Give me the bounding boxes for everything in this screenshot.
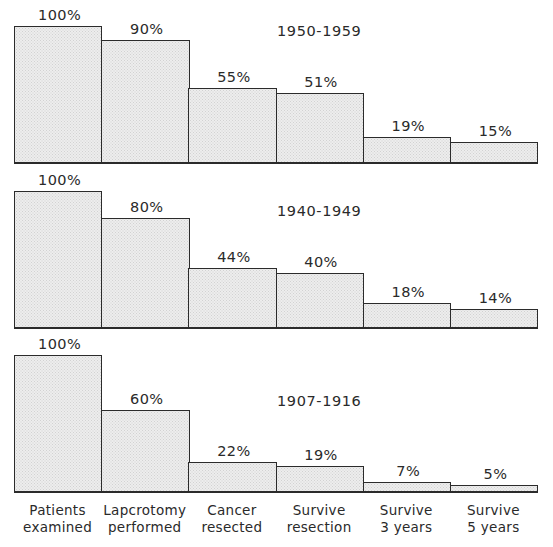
bar [188,268,276,328]
axis-label-line: resection [276,519,363,536]
panel-baseline [14,163,538,164]
axis-label-line: Survive [276,502,363,519]
bar-value-label: 19% [365,118,452,134]
panel-baseline [14,328,538,329]
bar-value-label: 80% [103,199,190,215]
axis-label-2: Cancerresected [188,502,275,536]
bar [363,482,451,492]
bar-value-label: 14% [452,290,539,306]
axis-label-line: Patients [14,502,101,519]
chart-panel-1940-1949: 1940-1949 100%80%44%40%18%14% [0,165,553,335]
bar [188,88,276,163]
bar [14,355,102,492]
bar-group-3: 100%60%22%19%7%5% [0,330,553,500]
bar [276,466,364,492]
axis-label-0: Patientsexamined [14,502,101,536]
bar-value-label: 100% [16,336,103,352]
axis-label-line: Lapcrotomy [101,502,188,519]
axis-label-line: Cancer [188,502,275,519]
axis-label-line: Survive [363,502,450,519]
bar-value-label: 100% [16,172,103,188]
bar-value-label: 19% [278,447,365,463]
bar-group-1: 100%90%55%51%19%15% [0,0,553,170]
bar-value-label: 100% [16,7,103,23]
bar [276,273,364,328]
bar [14,26,102,163]
bar [101,218,189,328]
axis-label-1: Lapcrotomyperformed [101,502,188,536]
bar [363,137,451,163]
chart-panel-1907-1916: 1907-1916 100%60%22%19%7%5% [0,330,553,500]
axis-label-5: Survive5 years [450,502,537,536]
panel-baseline [14,492,538,493]
bar-value-label: 5% [452,466,539,482]
bar-value-label: 18% [365,284,452,300]
bar [450,309,538,328]
bar-value-label: 7% [365,463,452,479]
axis-label-4: Survive3 years [363,502,450,536]
bar [101,410,189,492]
funnel-bar-chart-figure: 1950-1959 100%90%55%51%19%15% 1940-1949 … [0,0,553,547]
category-axis-labels: PatientsexaminedLapcrotomyperformedCance… [0,500,553,546]
bar [188,462,276,492]
chart-panel-1950-1959: 1950-1959 100%90%55%51%19%15% [0,0,553,170]
bar-value-label: 55% [190,69,277,85]
bar-value-label: 40% [278,254,365,270]
bar-value-label: 90% [103,21,190,37]
bar-value-label: 22% [190,443,277,459]
bar [276,93,364,163]
axis-label-line: 5 years [450,519,537,536]
axis-label-line: resected [188,519,275,536]
bar [363,303,451,328]
axis-label-line: performed [101,519,188,536]
axis-label-3: Surviveresection [276,502,363,536]
bar-value-label: 15% [452,123,539,139]
bar [450,142,538,163]
axis-label-line: Survive [450,502,537,519]
bar-group-2: 100%80%44%40%18%14% [0,165,553,335]
bar [14,191,102,328]
axis-label-line: examined [14,519,101,536]
bar-value-label: 51% [278,74,365,90]
bar [450,485,538,492]
bar [101,40,189,163]
axis-label-line: 3 years [363,519,450,536]
bar-value-label: 60% [103,391,190,407]
bar-value-label: 44% [190,249,277,265]
